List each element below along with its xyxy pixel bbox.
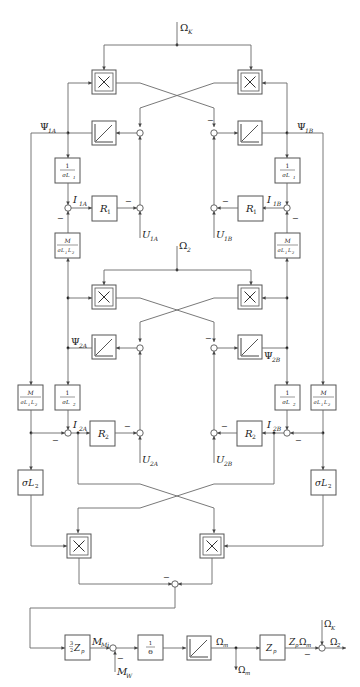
resistor-r1-b: R 1 <box>238 196 263 221</box>
svg-text:σL: σL <box>282 172 290 178</box>
label-psi-1b: Ψ 1B <box>297 121 314 134</box>
multiplier-1b <box>238 70 262 94</box>
svg-text:Mi: Mi <box>100 641 109 648</box>
integrator-omega-m <box>187 636 211 660</box>
gain-torque-3-2-zp: 3 2 Z p <box>65 635 90 660</box>
svg-text:K: K <box>330 625 336 631</box>
sum-node-i2a <box>65 430 71 436</box>
svg-text:−: − <box>163 573 170 582</box>
svg-text:2B: 2B <box>223 460 233 467</box>
multiplier-3b <box>200 534 224 558</box>
input-omega-k-bottom: Ω K <box>324 619 336 631</box>
svg-text:1: 1 <box>293 175 296 180</box>
svg-text:−: − <box>292 214 299 223</box>
svg-text:σL: σL <box>282 399 290 405</box>
output-omega-m: Ω m <box>238 665 250 676</box>
sum-node-u2a <box>137 430 143 436</box>
gain-inv-sigma-l1-b: 1 σL 1 <box>275 158 300 183</box>
integrator-psi-1a <box>92 121 116 145</box>
svg-text:1: 1 <box>28 403 30 407</box>
svg-text:−: − <box>207 116 214 125</box>
resistor-r2-b: R 2 <box>237 421 262 446</box>
svg-text:1: 1 <box>286 162 290 169</box>
label-i-1a: I 1A <box>72 194 88 207</box>
sum-node-mechanical <box>110 645 116 651</box>
sum-node-torque <box>172 581 178 587</box>
gain-inv-sigma-l2-a: 1 σL 2 <box>55 385 80 410</box>
svg-text:I: I <box>72 419 78 430</box>
sum-node-2b <box>211 345 217 351</box>
svg-text:σL: σL <box>314 399 321 405</box>
multiplier-2b <box>238 285 262 309</box>
svg-text:Z: Z <box>265 643 273 653</box>
svg-text:M: M <box>26 389 34 396</box>
svg-text:2B: 2B <box>272 425 282 432</box>
svg-text:m: m <box>245 670 250 676</box>
svg-text:σL: σL <box>22 478 34 488</box>
svg-text:σL: σL <box>21 399 28 405</box>
resistor-r1-a: R 1 <box>92 196 117 221</box>
svg-text:1A: 1A <box>150 235 159 242</box>
svg-text:1: 1 <box>66 162 70 169</box>
svg-text:m: m <box>223 642 228 648</box>
svg-text:−: − <box>221 422 228 431</box>
svg-text:p: p <box>273 648 277 655</box>
svg-text:1: 1 <box>253 208 257 215</box>
sum-node-i1a <box>65 205 71 211</box>
svg-text:K: K <box>187 28 193 35</box>
label-psi-1a: Ψ 1A <box>40 121 57 134</box>
svg-text:M: M <box>283 237 291 244</box>
svg-text:I: I <box>266 419 272 430</box>
integrator-psi-2b <box>238 335 262 359</box>
svg-text:1: 1 <box>149 640 153 646</box>
svg-text:1B: 1B <box>224 235 233 242</box>
svg-text:1A: 1A <box>48 127 57 134</box>
sum-node-u1b <box>211 205 217 211</box>
sum-node-i2b <box>284 430 290 436</box>
sum-node-u2b <box>211 430 217 436</box>
svg-text:2: 2 <box>328 483 332 489</box>
multiplier-3a <box>67 534 91 558</box>
multiplier-1a <box>92 70 116 94</box>
svg-text:σL: σL <box>278 247 285 253</box>
svg-text:σL: σL <box>62 172 70 178</box>
label-i-2b: I 2B <box>266 419 282 432</box>
multiplier-2a <box>92 285 116 309</box>
svg-text:3: 3 <box>70 640 73 646</box>
svg-text:p: p <box>81 648 85 655</box>
svg-text:Θ: Θ <box>148 649 153 655</box>
gain-m-sigma-l1l2-a-lower: M σL 1 L 2 <box>18 385 43 410</box>
svg-text:−: − <box>205 334 212 343</box>
svg-text:1A: 1A <box>79 200 88 207</box>
svg-text:1: 1 <box>286 389 290 396</box>
gain-m-sigma-l1l2-a-upper: M σL 1 L 2 <box>55 233 80 258</box>
svg-text:2A: 2A <box>78 425 88 432</box>
svg-text:−: − <box>222 197 229 206</box>
gain-sigma-l2-b: σL 2 <box>311 470 336 495</box>
integrator-psi-2a <box>92 335 116 359</box>
svg-text:2: 2 <box>186 246 191 253</box>
svg-text:2: 2 <box>292 402 296 407</box>
svg-text:2: 2 <box>105 433 109 440</box>
sum-node-1a <box>137 130 143 136</box>
integrator-psi-1b <box>238 121 262 145</box>
svg-text:1: 1 <box>285 251 287 255</box>
gain-sigma-l2-a: σL 2 <box>18 470 43 495</box>
svg-text:1B: 1B <box>273 200 282 207</box>
svg-text:1: 1 <box>321 403 323 407</box>
omega-k-input: Ω K <box>104 22 251 70</box>
sum-node-2a <box>137 345 143 351</box>
svg-text:σL: σL <box>315 478 327 488</box>
svg-text:σL: σL <box>62 399 70 405</box>
svg-text:W: W <box>126 672 133 679</box>
gain-inertia: 1 Θ <box>138 635 163 660</box>
svg-text:1: 1 <box>73 175 76 180</box>
svg-text:I: I <box>266 194 272 205</box>
input-u-1b: U 1B <box>216 229 233 242</box>
svg-text:−: − <box>124 422 131 431</box>
block-diagram: Ω K − Ψ 1A Ψ 1B 1 σL 1 <box>0 0 360 687</box>
sum-node-u1a <box>137 205 143 211</box>
svg-text:−: − <box>304 650 311 659</box>
sum-node-i1b <box>284 205 290 211</box>
svg-text:2B: 2B <box>271 356 281 363</box>
